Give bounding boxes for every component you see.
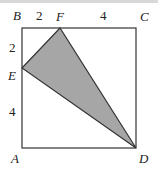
label-c: C [140,9,149,24]
label-d: D [138,151,149,166]
label-b: B [13,8,21,23]
shaded-triangle-def [22,28,136,148]
label-e: E [7,68,16,83]
length-be: 2 [9,40,16,55]
length-fc: 4 [100,8,107,23]
geometry-diagram: B F C E A D 2 4 2 4 [0,0,158,171]
length-ea: 4 [9,104,16,119]
label-f: F [55,9,65,24]
label-a: A [10,151,19,166]
length-bf: 2 [36,8,43,23]
